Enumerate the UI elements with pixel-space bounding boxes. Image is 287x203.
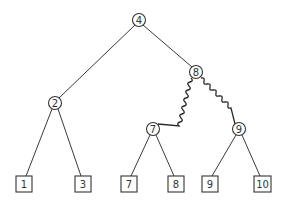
leaf-label: 1 [21, 179, 27, 190]
internal-nodes: 4 2 8 7 9 [49, 14, 246, 136]
tree-node-7: 7 [147, 123, 160, 136]
leaf-label: 9 [207, 179, 213, 190]
edge-7-8 [156, 135, 174, 176]
node-label: 2 [52, 98, 58, 109]
tree-node-9: 9 [233, 123, 246, 136]
tree-node-4: 4 [133, 14, 146, 27]
tree-node-8: 8 [190, 66, 203, 79]
node-label: 8 [193, 67, 199, 78]
leaf-label: 3 [80, 179, 86, 190]
leaf-label: 8 [173, 179, 179, 190]
node-label: 9 [236, 124, 242, 135]
edge-9-10 [242, 135, 260, 176]
leaf-label: 10 [256, 179, 269, 190]
tree-node-2: 2 [49, 97, 62, 110]
edge-4-8 [143, 25, 192, 67]
edge-9-9 [212, 135, 236, 176]
binary-tree-diagram: 4 2 8 7 9 1 3 7 [0, 0, 287, 203]
node-label: 7 [150, 124, 156, 135]
leaf-node-1: 1 [16, 176, 32, 192]
leaf-nodes: 1 3 7 8 9 10 [16, 176, 271, 192]
edge-2-1 [26, 109, 52, 176]
leaf-node-3: 3 [75, 176, 91, 192]
edge-4-2 [59, 25, 135, 98]
leaf-node-8: 8 [168, 176, 184, 192]
leaf-label: 7 [126, 179, 132, 190]
leaf-node-10: 10 [254, 176, 271, 192]
edge-2-3 [58, 109, 81, 176]
node-label: 4 [136, 15, 142, 26]
edge-8-7-wavy [158, 78, 192, 126]
leaf-node-7: 7 [121, 176, 137, 192]
edge-7-7 [131, 135, 150, 176]
leaf-node-9: 9 [202, 176, 218, 192]
edge-8-9-wavy [201, 78, 235, 124]
